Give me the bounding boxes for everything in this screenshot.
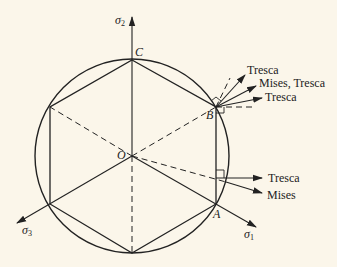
b-tresca-upper-label: Tresca <box>247 64 279 76</box>
b-arrow-mises-tresca <box>216 86 256 107</box>
sigma2-subscript: 2 <box>121 19 125 28</box>
sigma3-label: σ3 <box>22 224 32 238</box>
b-right-angle-upper <box>211 97 221 101</box>
point-o-label: O <box>117 149 126 161</box>
point-c-label: C <box>135 46 143 58</box>
sigma3-axis <box>17 156 132 223</box>
sigma2-label: σ2 <box>115 14 125 28</box>
b-mises-tresca-label: Mises, Tresca <box>259 77 325 89</box>
point-a-label: A <box>213 208 220 220</box>
sigma3-subscript: 3 <box>28 229 32 238</box>
sigma1-label: σ1 <box>244 228 254 242</box>
dashed-o-b <box>132 107 216 156</box>
side-mises-label: Mises <box>267 189 296 201</box>
point-b-label: B <box>206 109 213 121</box>
dashed-o-side-normal <box>132 156 226 182</box>
b-tresca-lower-label: Tresca <box>265 91 297 103</box>
side-arrow-mises <box>226 182 262 193</box>
diagram-graphics <box>0 0 337 267</box>
side-tresca-label: Tresca <box>268 172 300 184</box>
sigma1-subscript: 1 <box>250 233 254 242</box>
dashed-b-upward <box>216 78 230 107</box>
yield-surface-diagram: σ2 σ1 σ3 C O B A Tresca Mises, Tresca Tr… <box>0 0 337 267</box>
side-right-angle <box>216 170 224 178</box>
